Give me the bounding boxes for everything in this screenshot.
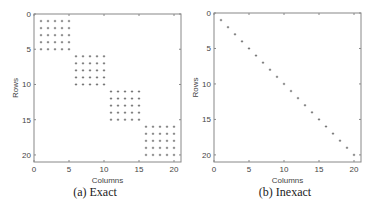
plot-inexact: 0510152005101520ColumnsRows [190, 0, 380, 214]
x-axis-label: Columns [272, 176, 304, 185]
y-tick-label: 20 [202, 151, 211, 160]
x-tick-label: 15 [315, 165, 324, 174]
y-tick-label: 10 [22, 80, 31, 89]
x-tick-label: 0 [32, 165, 37, 174]
y-tick-label: 15 [22, 116, 31, 125]
x-tick-label: 20 [170, 165, 179, 174]
y-tick-label: 5 [207, 44, 212, 53]
panel-inexact: 0510152005101520ColumnsRows (b) Inexact [190, 0, 380, 214]
x-axis-label: Columns [92, 176, 124, 185]
y-axis-label: Rows [191, 77, 200, 97]
y-tick-label: 0 [207, 9, 212, 18]
y-axis-label: Rows [11, 78, 20, 98]
caption-inexact: (b) Inexact [190, 185, 380, 200]
x-tick-label: 5 [247, 165, 252, 174]
y-tick-label: 0 [27, 10, 32, 19]
y-tick-label: 15 [202, 115, 211, 124]
x-tick-label: 10 [280, 165, 289, 174]
nonzero-markers [220, 19, 355, 156]
x-tick-label: 20 [350, 165, 359, 174]
panel-exact: 0510152005101520ColumnsRows (a) Exact [0, 0, 190, 214]
plot-frame [214, 13, 361, 162]
plot-frame [34, 14, 181, 162]
x-tick-label: 10 [100, 165, 109, 174]
nonzero-markers [40, 20, 175, 156]
y-tick-label: 5 [27, 45, 32, 54]
x-tick-label: 15 [135, 165, 144, 174]
caption-exact: (a) Exact [0, 185, 190, 200]
y-tick-label: 10 [202, 80, 211, 89]
y-tick-label: 20 [22, 151, 31, 160]
plot-exact: 0510152005101520ColumnsRows [0, 0, 190, 214]
x-tick-label: 5 [67, 165, 72, 174]
x-tick-label: 0 [212, 165, 217, 174]
